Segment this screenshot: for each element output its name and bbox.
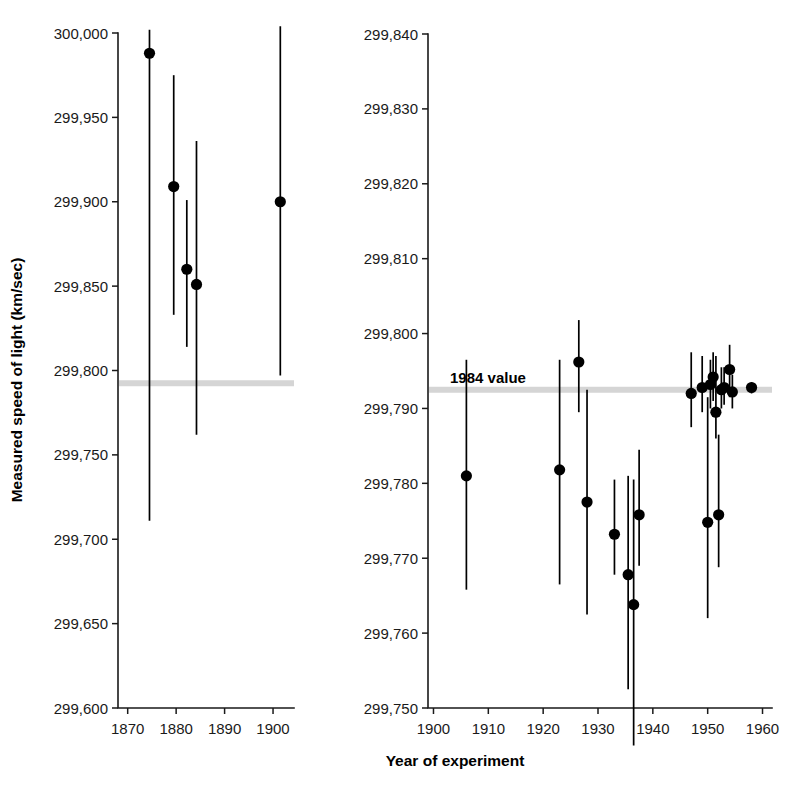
y-tick-label: 300,000 [54, 25, 108, 42]
y-tick-label: 299,950 [54, 109, 108, 126]
y-tick-label: 299,780 [364, 475, 418, 492]
y-tick-label: 299,800 [54, 362, 108, 379]
data-point-marker [634, 509, 645, 520]
y-tick-label: 299,840 [364, 26, 418, 43]
y-tick-label: 299,810 [364, 250, 418, 267]
y-tick-label: 299,850 [54, 278, 108, 295]
data-point-marker [191, 279, 202, 290]
data-point-marker [275, 196, 286, 207]
y-tick-label: 299,760 [364, 625, 418, 642]
y-tick-label: 299,770 [364, 550, 418, 567]
data-point-marker [713, 509, 724, 520]
data-point-marker [168, 181, 179, 192]
data-point-marker [144, 48, 155, 59]
speed-of-light-figure: 299,600299,650299,700299,750299,800299,8… [0, 0, 795, 796]
chart-canvas: 299,600299,650299,700299,750299,800299,8… [0, 0, 795, 796]
x-tick-label: 1910 [472, 720, 505, 737]
data-point-marker [573, 356, 584, 367]
reference-line-label: 1984 value [450, 369, 526, 386]
data-point-marker [628, 599, 639, 610]
x-tick-label: 1890 [208, 720, 241, 737]
y-axis-title: Measured speed of light (km/sec) [8, 258, 25, 503]
x-tick-label: 1950 [691, 720, 724, 737]
data-point-marker [708, 371, 719, 382]
y-tick-label: 299,750 [54, 446, 108, 463]
x-tick-label: 1880 [159, 720, 192, 737]
data-point-marker [623, 569, 634, 580]
data-point-marker [461, 470, 472, 481]
data-point-marker [686, 388, 697, 399]
x-tick-label: 1960 [746, 720, 779, 737]
data-point-marker [724, 364, 735, 375]
x-tick-label: 1900 [417, 720, 450, 737]
y-tick-label: 299,800 [364, 325, 418, 342]
y-tick-label: 299,600 [54, 700, 108, 717]
y-tick-label: 299,820 [364, 175, 418, 192]
data-point-marker [702, 517, 713, 528]
x-tick-label: 1900 [256, 720, 289, 737]
y-tick-label: 299,790 [364, 400, 418, 417]
x-tick-label: 1940 [636, 720, 669, 737]
x-tick-label: 1920 [526, 720, 559, 737]
data-point-marker [727, 386, 738, 397]
y-tick-label: 299,750 [364, 700, 418, 717]
data-point-marker [746, 382, 757, 393]
x-tick-label: 1930 [581, 720, 614, 737]
x-axis-title: Year of experiment [386, 752, 525, 769]
y-tick-label: 299,830 [364, 100, 418, 117]
data-point-marker [554, 464, 565, 475]
data-point-marker [581, 496, 592, 507]
data-point-marker [609, 529, 620, 540]
data-point-marker [710, 407, 721, 418]
y-tick-label: 299,900 [54, 193, 108, 210]
y-tick-label: 299,650 [54, 615, 108, 632]
data-point-marker [181, 264, 192, 275]
figure-background [0, 0, 795, 796]
y-tick-label: 299,700 [54, 531, 108, 548]
x-tick-label: 1870 [111, 720, 144, 737]
